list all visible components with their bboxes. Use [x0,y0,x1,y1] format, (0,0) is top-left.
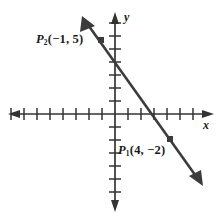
point-label-p2: P2(−1, 5) [36,32,83,47]
point-label-p1-subscript: 1 [126,149,130,158]
point-label-p1-coords: (4, −2) [130,143,166,157]
point-marker-p1 [167,136,173,142]
point-label-p2-coords: (−1, 5) [48,32,84,46]
y-axis-top-arrowhead [111,12,119,24]
point-label-p1-name: P [118,143,126,157]
point-label-p1: P1(4, −2) [118,143,165,158]
x-axis-left-arrowhead [8,110,20,118]
coordinate-plane-figure: P2(−1, 5) P1(4, −2) y x [0,0,222,221]
plotted-line-lower-arrowhead [189,170,203,186]
point-label-p2-name: P [36,32,44,46]
y-axis-label: y [124,10,129,25]
y-axis-bottom-arrowhead [111,200,119,212]
point-label-p2-subscript: 2 [44,38,48,47]
x-axis-right-arrowhead [202,110,214,118]
coordinate-axes-svg [0,0,222,221]
x-axis-label: x [203,118,209,133]
point-marker-p2 [98,37,104,43]
